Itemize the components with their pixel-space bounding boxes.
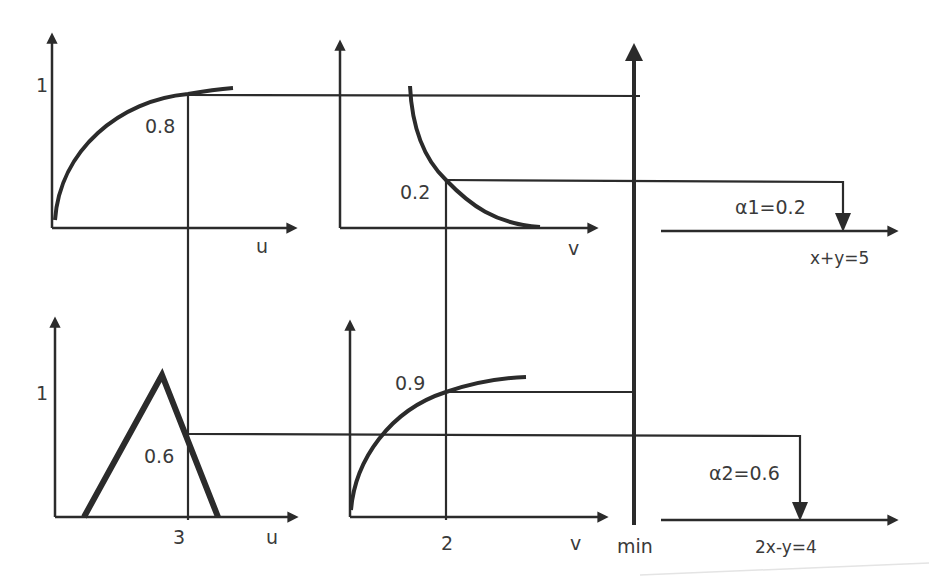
x-axis-label: u xyxy=(256,235,268,257)
projection-lines xyxy=(188,94,843,520)
alpha2-arrow-icon xyxy=(792,502,808,521)
output-rule-1: α1=0.2 x+y=5 xyxy=(661,196,893,268)
panel-top-middle: 0.2 v xyxy=(340,45,593,259)
y-tick-label: 1 xyxy=(36,382,48,404)
x-tick-label: 2 xyxy=(441,532,453,554)
membership-curve xyxy=(351,377,526,510)
min-axis-group: min xyxy=(617,52,653,557)
intersection-label: 0.8 xyxy=(145,115,175,137)
x-axis-label: u xyxy=(266,526,278,548)
x-tick-label: 3 xyxy=(173,526,185,548)
y-tick-label: 1 xyxy=(36,74,48,96)
membership-curve xyxy=(410,86,540,227)
panel-top-left: 1 0.8 u xyxy=(36,38,292,257)
alpha2-label: α2=0.6 xyxy=(709,462,780,484)
membership-curve xyxy=(55,88,233,220)
level-0-8-line xyxy=(188,95,640,96)
intersection-label: 0.6 xyxy=(144,445,174,467)
fuzzy-inference-diagram: 1 0.8 u 0.2 v 1 0.6 3 u 0.9 2 v xyxy=(0,0,929,581)
page-edge xyxy=(640,563,929,575)
intersection-label: 0.9 xyxy=(395,372,425,394)
min-label: min xyxy=(617,535,653,557)
intersection-label: 0.2 xyxy=(400,181,430,203)
consequent-2-label: 2x-y=4 xyxy=(755,537,817,557)
output-rule-2: α2=0.6 2x-y=4 xyxy=(661,462,893,557)
consequent-1-label: x+y=5 xyxy=(810,248,869,268)
alpha1-label: α1=0.2 xyxy=(735,196,806,218)
x-axis-label: v xyxy=(570,532,581,554)
alpha1-arrow-icon xyxy=(835,213,851,232)
panel-bottom-middle: 0.9 2 v xyxy=(350,325,603,554)
x-axis-label: v xyxy=(568,237,579,259)
